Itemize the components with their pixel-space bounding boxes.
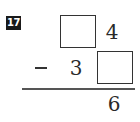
answer-box-top-tens[interactable] xyxy=(60,15,96,48)
minus-sign xyxy=(35,67,47,69)
answer-box-bottom-ones[interactable] xyxy=(97,51,133,84)
result-ones-digit: 6 xyxy=(106,94,122,114)
sum-line xyxy=(22,88,135,90)
bottom-tens-digit: 3 xyxy=(68,58,84,78)
top-ones-digit: 4 xyxy=(104,22,120,42)
problem-number-badge: 17 xyxy=(6,16,21,30)
